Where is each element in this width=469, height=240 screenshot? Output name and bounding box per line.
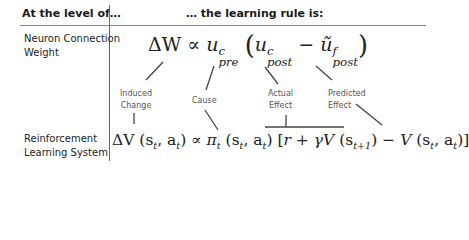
args: (s <box>226 131 240 149</box>
delta-v: ΔV <box>112 131 134 149</box>
note-line: Change <box>120 100 152 112</box>
subscript: t <box>217 140 221 151</box>
args: (s <box>139 131 153 149</box>
args: (s <box>339 131 353 149</box>
args: (s <box>416 131 430 149</box>
subscript: t+1 <box>353 140 371 151</box>
cause-connector-top <box>206 66 214 90</box>
close-paren: ) <box>266 131 272 149</box>
close-paren: ) <box>180 131 186 149</box>
minus-sign: − <box>382 131 395 149</box>
row-label-line: Learning System <box>24 146 108 160</box>
row-label-reinforcement: Reinforcement Learning System <box>24 132 108 160</box>
note-line: Actual <box>268 88 293 100</box>
note-line: Induced <box>120 88 152 100</box>
proportional-symbol: ∝ <box>191 131 202 149</box>
label-induced-change: Induced Change <box>120 88 152 112</box>
args: , a <box>434 131 453 149</box>
equation-reinforcement: ΔV (st, at) ∝ πt (st, at) [r + γV (st+1)… <box>112 131 469 151</box>
note-line: Predicted <box>328 88 366 100</box>
label-cause: Cause <box>192 95 217 107</box>
value-term: V <box>400 131 411 149</box>
cause-connector-bottom <box>205 110 218 130</box>
actual-effect-connector-top <box>265 67 278 84</box>
note-line: Cause <box>192 95 217 107</box>
discounted-value-term: γV <box>314 131 334 149</box>
label-actual-effect: Actual Effect <box>268 88 293 112</box>
args: , a <box>243 131 262 149</box>
close-bracket: ] <box>463 131 469 149</box>
note-line: Effect <box>268 100 293 112</box>
predicted-effect-connector-top <box>316 66 332 80</box>
reward-term: r <box>284 131 291 149</box>
row-label-line: Reinforcement <box>24 132 108 146</box>
plus-sign: + <box>296 131 309 149</box>
args: , a <box>157 131 176 149</box>
policy-term: π <box>207 131 217 149</box>
close-paren: ) <box>371 131 377 149</box>
note-line: Effect <box>328 100 366 112</box>
label-predicted-effect: Predicted Effect <box>328 88 366 112</box>
induced-change-connector-top <box>146 62 163 80</box>
